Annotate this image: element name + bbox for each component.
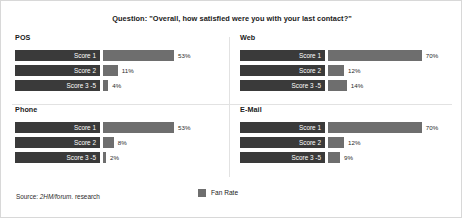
panel-phone: Phone Score 1 53% Score 2 xyxy=(12,105,229,175)
bar-track: 9% xyxy=(328,152,454,163)
value-bar xyxy=(328,80,347,91)
panel-title-email: E-Mail xyxy=(240,105,262,114)
value-label: 53% xyxy=(178,51,190,60)
category-label: Score 2 xyxy=(74,66,96,75)
category-label: Score 3 -5 xyxy=(292,81,321,90)
value-label: 70% xyxy=(426,51,438,60)
bar-row: Score 1 53% xyxy=(15,122,229,133)
category-label: Score 2 xyxy=(299,138,321,147)
category-bar: Score 1 xyxy=(240,122,325,133)
value-label: 70% xyxy=(426,123,438,132)
legend: Fan Rate xyxy=(198,189,238,197)
source-note: Source: 2HM/forum. research xyxy=(16,193,100,200)
bar-track: 12% xyxy=(328,65,454,76)
bar-row: Score 2 11% xyxy=(15,65,229,76)
category-bar: Score 3 -5 xyxy=(240,152,325,163)
panel-title-pos: POS xyxy=(15,33,30,42)
bar-track: 12% xyxy=(328,137,454,148)
category-label: Score 2 xyxy=(74,138,96,147)
source-suffix: research xyxy=(73,193,100,200)
value-bar xyxy=(103,65,118,76)
category-label: Score 3 -5 xyxy=(67,81,96,90)
category-bar: Score 1 xyxy=(15,122,100,133)
category-bar: Score 3 -5 xyxy=(15,80,100,91)
value-label: 8% xyxy=(118,138,127,147)
bar-rows-email: Score 1 70% Score 2 12% xyxy=(240,122,454,167)
value-label: 9% xyxy=(344,153,353,162)
category-bar: Score 2 xyxy=(240,137,325,148)
value-label: 53% xyxy=(178,123,190,132)
value-label: 12% xyxy=(348,66,360,75)
bar-track: 11% xyxy=(103,65,229,76)
bar-track: 8% xyxy=(103,137,229,148)
legend-swatch-fan-rate xyxy=(198,189,206,197)
value-bar xyxy=(103,80,108,91)
category-label: Score 3 -5 xyxy=(292,153,321,162)
category-bar: Score 2 xyxy=(240,65,325,76)
value-bar xyxy=(328,122,422,133)
value-bar xyxy=(103,50,174,61)
value-bar xyxy=(328,152,340,163)
value-bar xyxy=(103,152,106,163)
slide-canvas: Question: "Overall, how satisfied were y… xyxy=(0,0,462,218)
bar-track: 53% xyxy=(103,122,229,133)
bar-rows-web: Score 1 70% Score 2 12% xyxy=(240,50,454,95)
value-bar xyxy=(328,65,344,76)
value-bar xyxy=(328,50,422,61)
category-label: Score 1 xyxy=(299,51,321,60)
category-bar: Score 2 xyxy=(15,65,100,76)
panel-email: E-Mail Score 1 70% Score 2 xyxy=(237,105,454,175)
category-label: Score 1 xyxy=(74,123,96,132)
panel-web: Web Score 1 70% Score 2 xyxy=(237,33,454,103)
value-bar xyxy=(103,137,114,148)
bar-row: Score 1 70% xyxy=(240,122,454,133)
value-label: 11% xyxy=(122,66,134,75)
page-title: Question: "Overall, how satisfied were y… xyxy=(1,14,462,23)
category-bar: Score 1 xyxy=(15,50,100,61)
bar-row: Score 3 -5 9% xyxy=(240,152,454,163)
bar-row: Score 1 53% xyxy=(15,50,229,61)
category-bar: Score 2 xyxy=(15,137,100,148)
source-emphasis: 2HM/forum. xyxy=(40,193,73,200)
category-label: Score 1 xyxy=(299,123,321,132)
category-label: Score 2 xyxy=(299,66,321,75)
legend-label-fan-rate: Fan Rate xyxy=(211,189,238,197)
value-bar xyxy=(328,137,344,148)
bar-row: Score 2 12% xyxy=(240,137,454,148)
bar-track: 14% xyxy=(328,80,454,91)
bar-track: 70% xyxy=(328,122,454,133)
category-bar: Score 1 xyxy=(240,50,325,61)
bar-track: 4% xyxy=(103,80,229,91)
panel-title-web: Web xyxy=(240,33,255,42)
panel-grid: POS Score 1 53% Score 2 xyxy=(1,33,462,178)
bar-row: Score 1 70% xyxy=(240,50,454,61)
category-label: Score 3 -5 xyxy=(67,153,96,162)
bar-row: Score 2 8% xyxy=(15,137,229,148)
bar-track: 53% xyxy=(103,50,229,61)
category-bar: Score 3 -5 xyxy=(240,80,325,91)
value-label: 2% xyxy=(110,153,119,162)
bar-track: 2% xyxy=(103,152,229,163)
bar-rows-pos: Score 1 53% Score 2 11% xyxy=(15,50,229,95)
category-label: Score 1 xyxy=(74,51,96,60)
bar-rows-phone: Score 1 53% Score 2 8% xyxy=(15,122,229,167)
value-label: 4% xyxy=(112,81,121,90)
value-bar xyxy=(103,122,174,133)
source-prefix: Source: xyxy=(16,193,40,200)
panel-title-phone: Phone xyxy=(15,105,37,114)
bar-row: Score 2 12% xyxy=(240,65,454,76)
bar-track: 70% xyxy=(328,50,454,61)
value-label: 12% xyxy=(348,138,360,147)
bar-row: Score 3 -5 14% xyxy=(240,80,454,91)
value-label: 14% xyxy=(351,81,363,90)
bar-row: Score 3 -5 2% xyxy=(15,152,229,163)
category-bar: Score 3 -5 xyxy=(15,152,100,163)
panel-pos: POS Score 1 53% Score 2 xyxy=(12,33,229,103)
bar-row: Score 3 -5 4% xyxy=(15,80,229,91)
